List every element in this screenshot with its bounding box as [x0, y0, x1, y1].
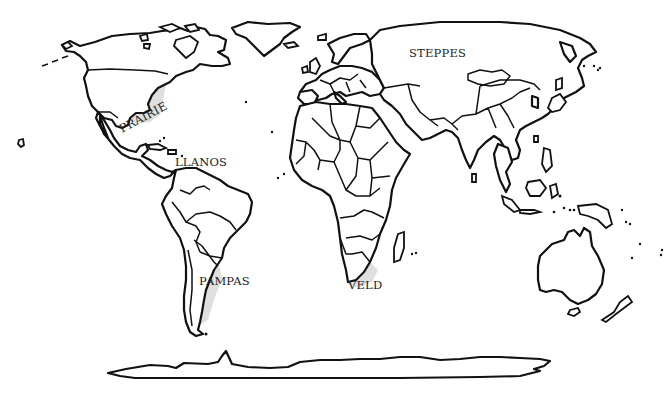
new-zealand — [602, 296, 632, 322]
sakhalin — [556, 78, 562, 90]
korea — [532, 96, 538, 108]
pacific-dot — [660, 254, 662, 256]
pacific-dot — [583, 65, 585, 67]
new-guinea — [578, 204, 612, 228]
atlantic-dot — [283, 173, 285, 175]
atlantic-dot — [245, 101, 247, 103]
pacific-dot — [621, 209, 623, 211]
indian-ocean-dot — [411, 253, 413, 255]
great-britain — [310, 58, 320, 74]
australia — [538, 228, 604, 304]
taiwan — [534, 136, 538, 142]
indonesia-dot — [563, 207, 566, 210]
indonesia-dot — [559, 195, 562, 198]
tasmania — [568, 308, 580, 316]
southeast-asia-peninsula — [494, 144, 512, 192]
north-america — [42, 22, 300, 178]
pacific-dot — [629, 223, 631, 225]
arctic-island-4 — [144, 44, 150, 49]
europe — [284, 34, 384, 104]
ireland — [302, 66, 308, 73]
borneo — [526, 180, 546, 196]
label-veld: VELD — [347, 278, 382, 292]
pacific-dot — [593, 65, 595, 67]
oceania — [538, 228, 632, 322]
antarctica — [108, 351, 550, 378]
caribbean-dot — [163, 137, 165, 139]
caribbean-dot — [159, 140, 161, 142]
scandinavia — [328, 34, 370, 64]
philippines — [542, 148, 552, 172]
sumatra — [502, 196, 520, 212]
label-llanos: LLANOS — [175, 155, 227, 169]
hispaniola — [168, 150, 176, 154]
falklands — [205, 333, 208, 336]
cuba — [148, 144, 166, 150]
pacific-dot — [631, 257, 633, 259]
sulawesi — [550, 184, 558, 198]
hawaii — [18, 139, 24, 147]
greenland — [232, 22, 300, 56]
pacific-dot — [661, 249, 663, 251]
pacific-dot — [639, 243, 641, 245]
svalbard — [318, 34, 326, 40]
madagascar — [394, 232, 404, 262]
indonesia-dot — [573, 209, 576, 212]
atlantic-dot — [277, 177, 279, 179]
indian-ocean-dot — [415, 252, 417, 254]
atlantic-dot — [271, 131, 273, 133]
africa — [271, 102, 417, 282]
iceland — [284, 42, 298, 48]
sri-lanka — [472, 174, 476, 182]
indonesia-dot — [553, 211, 556, 214]
pacific-dot — [625, 221, 627, 223]
pacific-dot — [599, 67, 601, 69]
world-map: PRAIRIE STEPPES LLANOS PAMPAS VELD — [0, 0, 672, 401]
java — [520, 210, 540, 214]
arctic-island-3 — [140, 34, 148, 41]
aleutian-islands — [42, 56, 68, 66]
pacific-dot — [597, 69, 599, 71]
indonesia-dot — [569, 209, 572, 212]
label-steppes: STEPPES — [409, 46, 466, 60]
label-pampas: PAMPAS — [199, 274, 250, 288]
